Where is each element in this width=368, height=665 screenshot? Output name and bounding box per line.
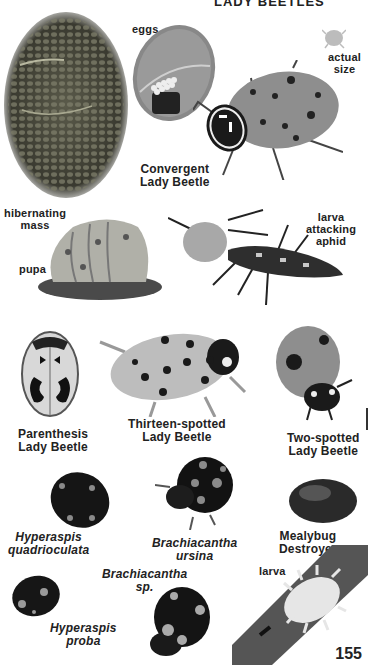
actual-size-silhouette [322,26,346,50]
larva-attacking-aphid-label: larva attacking aphid [306,211,356,247]
pupa-photo [38,212,168,302]
brachiacantha-ursina-photo [155,455,235,530]
convergent-lady-beetle-photo [193,60,343,180]
hyperaspis-quadrioculata-label: Hyperaspis quadrioculata [8,531,89,557]
two-spotted-lady-beetle-label: Two-spotted Lady Beetle [287,432,360,458]
page-number: 155 [335,645,362,663]
hibernating-mass-photo [2,10,130,200]
hyperaspis-proba-photo [6,570,66,625]
hyperaspis-proba-label: Hyperaspis proba [50,622,117,648]
section-title: LADY BEETLES [214,0,325,9]
pupa-label: pupa [19,263,46,275]
thirteen-spotted-lady-beetle-photo [95,322,255,417]
hyperaspis-quadrioculata-photo [40,466,115,536]
two-spotted-lady-beetle-photo [272,322,357,422]
thirteen-spotted-lady-beetle-label: Thirteen-spotted Lady Beetle [128,418,226,444]
brachiacantha-sp-photo [142,582,214,664]
convergent-lady-beetle-label: Convergent Lady Beetle [140,163,210,189]
mealybug-destroyer-photo [285,475,360,525]
brachiacantha-ursina-label: Brachiacantha ursina [152,537,237,563]
parenthesis-lady-beetle-label: Parenthesis Lady Beetle [18,428,88,454]
parenthesis-lady-beetle-photo [12,322,92,422]
